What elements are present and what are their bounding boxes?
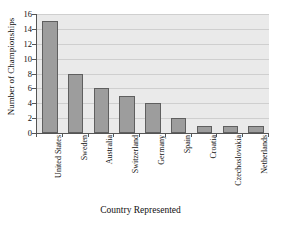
bar-series bbox=[37, 14, 269, 133]
bar bbox=[248, 126, 263, 133]
x-category-label: Croatia bbox=[208, 135, 219, 197]
bar bbox=[197, 126, 212, 133]
x-category-label: United States bbox=[53, 135, 64, 197]
y-tick-label: 12 bbox=[14, 40, 32, 48]
x-axis-title: Country Represented bbox=[0, 205, 281, 215]
plot-area bbox=[36, 14, 269, 133]
y-tick-label: 2 bbox=[14, 114, 32, 122]
x-category-label: Switzerland bbox=[130, 135, 141, 197]
y-tick-label: 0 bbox=[14, 129, 32, 137]
y-tick-label: 16 bbox=[14, 10, 32, 18]
x-category-label: Czechoslovakia bbox=[233, 135, 244, 197]
y-tick-label: 4 bbox=[14, 99, 32, 107]
bar bbox=[145, 103, 160, 133]
bar bbox=[223, 126, 238, 133]
chart-title bbox=[0, 0, 281, 1]
x-category-label: Australia bbox=[104, 135, 115, 197]
bar bbox=[42, 21, 57, 133]
y-tick-label: 8 bbox=[14, 70, 32, 78]
bar bbox=[94, 88, 109, 133]
x-category-label: Germany bbox=[156, 135, 167, 197]
bar-chart-figure: Number of Championships 0246810121416 Un… bbox=[0, 0, 281, 225]
y-tick-label: 14 bbox=[14, 25, 32, 33]
y-tick-label: 10 bbox=[14, 55, 32, 63]
y-axis-tick-labels: 0246810121416 bbox=[14, 14, 32, 134]
y-tick-label: 6 bbox=[14, 84, 32, 92]
x-axis-category-labels: United StatesSwedenAustraliaSwitzerlandG… bbox=[36, 137, 268, 199]
x-category-label: Netherlands bbox=[259, 135, 270, 197]
x-category-label: Sweden bbox=[79, 135, 90, 197]
x-category-label: Spain bbox=[182, 135, 193, 197]
bar bbox=[119, 96, 134, 133]
bar bbox=[68, 74, 83, 134]
bar bbox=[171, 118, 186, 133]
